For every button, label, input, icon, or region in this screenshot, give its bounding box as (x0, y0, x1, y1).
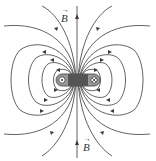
vector-arrow: → (62, 7, 69, 14)
arrow-icon (100, 131, 104, 135)
arrow-icon (40, 109, 44, 113)
arrow-icon (44, 98, 48, 102)
top-field-label: → B (61, 13, 68, 24)
arrow-icon (106, 98, 110, 102)
arrow-icon (75, 14, 79, 19)
arrow-icon (110, 109, 114, 113)
arrow-icon (50, 131, 54, 135)
arrow-icon (108, 50, 112, 54)
arrow-icon (96, 27, 100, 31)
magnetic-field-diagram (0, 0, 156, 161)
arrow-icon (42, 50, 46, 54)
vector-arrow: → (84, 136, 91, 143)
arrow-icon (54, 27, 58, 31)
arrow-icon (100, 58, 104, 62)
arrow-icon (50, 58, 54, 62)
arrow-icon (75, 140, 79, 145)
bottom-field-label: → B (83, 142, 90, 153)
current-loop-coil (56, 74, 100, 86)
